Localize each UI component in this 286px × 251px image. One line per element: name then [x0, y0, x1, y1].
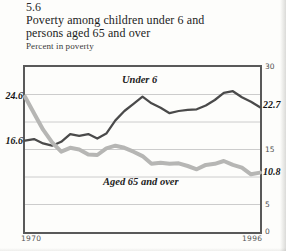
series-label-under6: Under 6	[122, 74, 157, 85]
data-label-aged65-start: 24.6	[0, 90, 23, 101]
y-axis-tick-15: 15	[265, 146, 285, 154]
y-axis-tick-30: 30	[265, 63, 285, 71]
line-chart-canvas	[25, 67, 260, 232]
data-label-aged65-end: 10.8	[263, 166, 281, 177]
data-label-under6-start: 16.6	[0, 135, 23, 146]
y-axis-tick-5: 5	[265, 201, 285, 209]
x-axis-tick-1996: 1996	[242, 234, 262, 243]
series-label-aged65: Aged 65 and over	[103, 176, 179, 187]
chart-subtitle: Percent in poverty	[26, 41, 94, 51]
x-axis-tick-1970: 1970	[21, 234, 41, 243]
data-label-under6-end: 22.7	[263, 99, 281, 110]
page-edge-shading-right	[280, 0, 286, 251]
chart-title-line-2: persons aged 65 and over	[26, 27, 150, 40]
plot-area	[23, 65, 262, 234]
y-axis-tick-0: 0	[265, 228, 285, 236]
chart-figure: 5.6 Poverty among children under 6 and p…	[0, 0, 286, 251]
